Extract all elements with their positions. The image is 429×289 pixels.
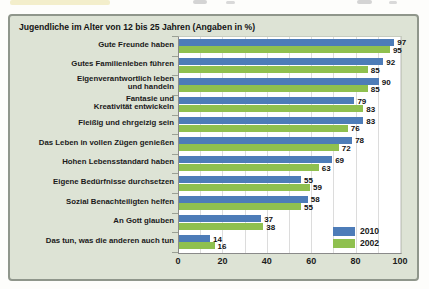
value-label: 76 [351,124,360,133]
value-label: 90 [382,77,391,86]
bar-2002 [179,223,263,230]
category-label: Eigene Bedürfnisse durchsetzen [14,178,174,187]
value-label: 85 [371,65,380,74]
legend-label-2010: 2010 [360,226,379,236]
value-label: 69 [335,156,344,165]
category-axis-tick [172,232,178,233]
bar-2010 [179,196,308,203]
category-axis-tick [172,134,178,135]
value-label: 92 [386,57,395,66]
bar-2010 [179,156,332,163]
category-label: An Gott glauben [14,217,174,226]
chart-box: Jugendliche im Alter von 12 bis 25 Jahre… [8,14,419,281]
category-label: Das tun, was die anderen auch tun [14,237,174,246]
cropped-text-fragment [389,1,397,4]
value-label: 59 [313,183,322,192]
highlight-remnant [10,0,110,5]
category-label: Sozial Benachteiligten helfen [14,197,174,206]
legend-swatch-2002 [333,239,355,248]
chart-title: Jugendliche im Alter von 12 bis 25 Jahre… [19,22,255,32]
category-axis-tick [172,115,178,116]
value-label: 72 [342,144,351,153]
category-axis-tick [172,36,178,37]
bar-2010 [179,78,379,85]
category-label: Gutes Familienleben führen [14,60,174,69]
category-label: Das Leben in vollen Zügen genießen [14,138,174,147]
cropped-text-fragment [357,0,372,4]
value-label: 95 [393,45,402,54]
value-label: 63 [322,163,331,172]
bar-2002 [179,105,363,112]
category-label: Hohen Lebensstandard haben [14,158,174,167]
category-axis-tick [172,213,178,214]
bar-2010 [179,117,363,124]
legend-swatch-2010 [333,227,355,236]
x-axis-label: 0 [165,256,191,266]
x-axis-label: 80 [343,256,369,266]
bar-2002 [179,242,215,249]
x-axis-label: 40 [254,256,280,266]
bar-2010 [179,58,383,65]
cropped-text-fragment [193,0,207,4]
x-axis-label: 60 [298,256,324,266]
bar-2002 [179,85,368,92]
bar-2002 [179,125,348,132]
category-axis-tick [172,56,178,57]
value-label: 16 [218,242,227,251]
bar-2010 [179,235,210,242]
category-axis-tick [172,75,178,76]
bar-2002 [179,66,368,73]
x-axis-label: 20 [209,256,235,266]
bar-2002 [179,46,390,53]
bar-2010 [179,176,301,183]
value-label: 85 [371,85,380,94]
category-axis-tick [172,154,178,155]
gridline [400,37,401,253]
value-label: 83 [366,116,375,125]
bar-2010 [179,137,352,144]
bar-2002 [179,164,319,171]
bar-2010 [179,39,394,46]
legend-label-2002: 2002 [360,238,379,248]
category-axis-tick [172,193,178,194]
value-label: 78 [355,136,364,145]
category-label: Fleißig und ehrgeizig sein [14,119,174,128]
category-axis-tick [172,252,178,253]
category-axis-tick [172,95,178,96]
value-label: 38 [266,222,275,231]
bar-2002 [179,203,301,210]
bar-2010 [179,97,354,104]
bar-2002 [179,144,339,151]
x-axis-label: 100 [387,256,413,266]
category-label: Eigenverantwortlich leben und handeln [14,75,174,92]
bar-2002 [179,184,310,191]
category-label: Gute Freunde haben [14,40,174,49]
bar-2010 [179,215,261,222]
category-axis-tick [172,173,178,174]
value-label: 83 [366,104,375,113]
plot-area: 9795928590857983837678726963555958553738… [178,36,402,254]
cropped-text-fragment [226,1,235,4]
figure-canvas: Jugendliche im Alter von 12 bis 25 Jahre… [0,0,429,289]
value-label: 55 [304,202,313,211]
category-label: Fantasie und Kreativität entwickeln [14,95,174,112]
